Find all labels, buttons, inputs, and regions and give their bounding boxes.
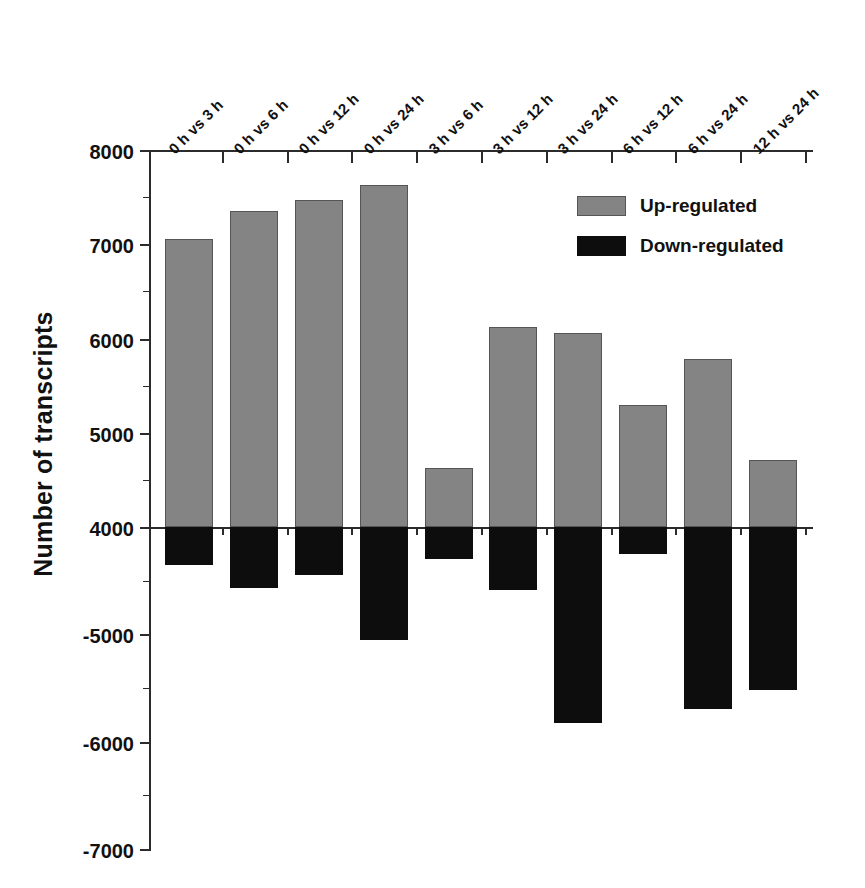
bar-up-regulated — [684, 359, 732, 527]
y-tick-minor-5500 — [143, 386, 150, 387]
y-tick-minor-6500 — [143, 291, 150, 292]
y-tick-5000: 5000 — [140, 433, 151, 435]
x-tick-top — [351, 150, 353, 163]
y-tick-minor-minus-4500 — [143, 581, 150, 582]
legend-label-up-regulated: Up-regulated — [640, 195, 757, 217]
bar-up-regulated — [749, 460, 797, 527]
bar-down-regulated — [425, 527, 473, 559]
legend-entry-down-regulated: Down-regulated — [577, 226, 784, 266]
y-tick-minus-6000: -6000 — [140, 742, 151, 744]
y-tick-minor-4500 — [143, 480, 150, 481]
y-tick-label-minus-5000: -5000 — [83, 625, 134, 648]
bar-up-regulated — [165, 239, 213, 527]
category-label: 0 h vs 24 h — [360, 90, 427, 157]
category-label: 0 h vs 6 h — [230, 96, 291, 157]
category-label: 12 h vs 24 h — [749, 84, 822, 157]
bar-up-regulated — [554, 333, 602, 527]
bar-up-regulated — [230, 211, 278, 527]
bar-down-regulated — [295, 527, 343, 575]
y-tick-minus-5000: -5000 — [140, 634, 151, 636]
y-tick-minor-minus-6500 — [143, 795, 150, 796]
x-tick-top — [222, 150, 224, 163]
bar-down-regulated — [749, 527, 797, 690]
legend-swatch-up-regulated — [577, 196, 626, 216]
x-tick-top — [805, 150, 807, 163]
bar-down-regulated — [684, 527, 732, 709]
category-label: 6 h vs 24 h — [684, 90, 751, 157]
bar-up-regulated — [295, 200, 343, 527]
y-tick-label-5000: 5000 — [90, 423, 135, 446]
bar-down-regulated — [489, 527, 537, 590]
y-tick-7000: 7000 — [140, 244, 151, 246]
chart-legend: Up-regulated Down-regulated — [577, 186, 784, 266]
category-label: 6 h vs 12 h — [619, 90, 686, 157]
x-tick-top — [287, 150, 289, 163]
bar-chart-figure: Number of transcripts 8000 7000 6000 500… — [0, 0, 865, 888]
bar-down-regulated — [230, 527, 278, 588]
bar-down-regulated — [165, 527, 213, 565]
x-tick-top — [740, 150, 742, 163]
x-tick-zero — [546, 527, 548, 535]
y-tick-label-minus-7000: -7000 — [83, 840, 134, 863]
y-axis-spine — [149, 150, 151, 849]
category-label: 3 h vs 24 h — [554, 90, 621, 157]
y-tick-4000: 4000 — [140, 527, 151, 529]
x-tick-zero — [805, 527, 807, 535]
legend-entry-up-regulated: Up-regulated — [577, 186, 784, 226]
x-tick-zero — [611, 527, 613, 535]
y-tick-label-4000: 4000 — [90, 518, 135, 541]
x-tick-zero — [222, 527, 224, 535]
y-tick-label-minus-6000: -6000 — [83, 732, 134, 755]
y-tick-label-8000: 8000 — [90, 141, 135, 164]
x-tick-zero — [481, 527, 483, 535]
y-tick-label-7000: 7000 — [90, 235, 135, 258]
y-tick-6000: 6000 — [140, 339, 151, 341]
x-tick-zero — [675, 527, 677, 535]
bar-down-regulated — [619, 527, 667, 554]
x-tick-zero — [416, 527, 418, 535]
x-tick-zero — [740, 527, 742, 535]
bar-down-regulated — [360, 527, 408, 640]
bar-up-regulated — [425, 468, 473, 527]
bar-down-regulated — [554, 527, 602, 723]
legend-label-down-regulated: Down-regulated — [640, 235, 784, 257]
category-label: 3 h vs 12 h — [489, 90, 556, 157]
legend-swatch-down-regulated — [577, 236, 626, 256]
bar-up-regulated — [489, 327, 537, 527]
category-label: 0 h vs 3 h — [165, 96, 226, 157]
x-tick-top — [611, 150, 613, 163]
y-tick-label-6000: 6000 — [90, 329, 135, 352]
y-tick-minus-7000: -7000 — [140, 849, 151, 851]
x-tick-top — [481, 150, 483, 163]
bar-up-regulated — [619, 405, 667, 527]
x-tick-zero — [351, 527, 353, 535]
category-label: 0 h vs 12 h — [295, 90, 362, 157]
x-tick-top — [675, 150, 677, 163]
y-tick-minor-7500 — [143, 197, 150, 198]
category-label: 3 h vs 6 h — [425, 96, 486, 157]
x-tick-top — [546, 150, 548, 163]
bar-up-regulated — [360, 185, 408, 527]
y-tick-8000: 8000 — [140, 150, 151, 152]
y-tick-minor-minus-5500 — [143, 688, 150, 689]
y-axis-title: Number of transcripts — [12, 0, 74, 888]
x-tick-top — [416, 150, 418, 163]
x-tick-zero — [287, 527, 289, 535]
